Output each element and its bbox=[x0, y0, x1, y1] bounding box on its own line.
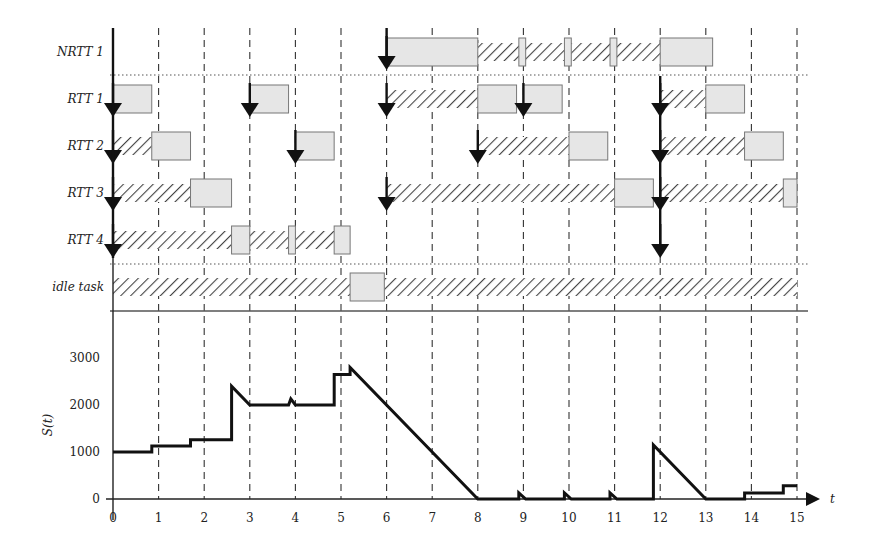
waiting-segment bbox=[113, 278, 350, 296]
x-tick-label: 4 bbox=[292, 511, 300, 525]
execution-block bbox=[289, 226, 296, 254]
release-arrow-head-icon bbox=[378, 103, 396, 117]
execution-block bbox=[783, 179, 797, 207]
task-row-idle-task bbox=[113, 273, 797, 301]
waiting-segment bbox=[384, 278, 797, 296]
execution-block bbox=[387, 38, 478, 66]
execution-block bbox=[295, 132, 334, 160]
execution-block bbox=[350, 273, 384, 301]
execution-block bbox=[191, 179, 232, 207]
x-tick-label: 2 bbox=[200, 511, 208, 525]
waiting-segment bbox=[660, 184, 783, 202]
gantt-schedule bbox=[104, 28, 797, 520]
x-tick-label: 9 bbox=[520, 511, 528, 525]
row-label: idle task bbox=[52, 280, 104, 294]
x-axis-label: t bbox=[830, 492, 835, 506]
x-axis-arrow-icon bbox=[806, 492, 820, 506]
y-tick-label: 1000 bbox=[69, 445, 100, 459]
task-row-labels: NRTT 1RTT 1RTT 2RTT 3RTT 4idle task bbox=[52, 45, 104, 294]
task-row-rtt-4 bbox=[113, 226, 350, 254]
execution-block bbox=[519, 38, 526, 66]
x-tick-label: 12 bbox=[653, 511, 668, 525]
execution-block bbox=[478, 85, 517, 113]
execution-block bbox=[660, 38, 712, 66]
row-label: RTT 2 bbox=[66, 139, 104, 153]
y-axis-label: S(t) bbox=[41, 413, 55, 436]
x-tick-label: 5 bbox=[337, 511, 345, 525]
x-tick-label: 15 bbox=[789, 511, 804, 525]
waiting-segment bbox=[113, 184, 191, 202]
waiting-segment bbox=[387, 184, 615, 202]
x-tick-label: 1 bbox=[155, 511, 163, 525]
row-label: RTT 3 bbox=[66, 186, 104, 200]
s-of-t-plot: t01234567891011121314150100020003000S(t) bbox=[41, 351, 835, 525]
waiting-segment bbox=[387, 90, 478, 108]
y-tick-label: 3000 bbox=[69, 351, 100, 365]
x-tick-label: 14 bbox=[744, 511, 760, 525]
execution-block bbox=[334, 226, 350, 254]
execution-block bbox=[564, 38, 571, 66]
execution-block bbox=[523, 85, 562, 113]
execution-block bbox=[569, 132, 608, 160]
x-tick-label: 6 bbox=[383, 511, 391, 525]
series-line-s-of-t bbox=[113, 367, 797, 499]
row-label: RTT 4 bbox=[66, 233, 104, 247]
execution-block bbox=[706, 85, 745, 113]
execution-block bbox=[745, 132, 784, 160]
row-label: RTT 1 bbox=[66, 92, 104, 106]
x-tick-label: 7 bbox=[428, 511, 436, 525]
x-tick-label: 0 bbox=[109, 511, 117, 525]
schedule-chart: NRTT 1RTT 1RTT 2RTT 3RTT 4idle task t012… bbox=[0, 0, 872, 553]
waiting-segment bbox=[113, 231, 232, 249]
x-tick-label: 13 bbox=[698, 511, 713, 525]
task-row-rtt-2 bbox=[113, 132, 783, 160]
execution-block bbox=[615, 179, 654, 207]
waiting-segment bbox=[295, 231, 334, 249]
execution-block bbox=[232, 226, 250, 254]
execution-block bbox=[250, 85, 289, 113]
task-row-rtt-1 bbox=[113, 85, 745, 113]
waiting-segment bbox=[250, 231, 289, 249]
execution-block bbox=[113, 85, 152, 113]
row-label: NRTT 1 bbox=[56, 45, 104, 59]
y-tick-label: 2000 bbox=[69, 398, 100, 412]
x-tick-label: 8 bbox=[474, 511, 482, 525]
task-row-rtt-3 bbox=[113, 179, 797, 207]
waiting-segment bbox=[478, 137, 569, 155]
x-tick-label: 11 bbox=[607, 511, 622, 525]
execution-block bbox=[152, 132, 191, 160]
execution-block bbox=[610, 38, 617, 66]
waiting-segment bbox=[660, 137, 744, 155]
task-row-nrtt-1 bbox=[387, 38, 713, 66]
y-tick-label: 0 bbox=[92, 492, 100, 506]
x-tick-label: 10 bbox=[561, 511, 576, 525]
release-arrow-head-icon bbox=[378, 197, 396, 211]
release-arrow-head-icon bbox=[469, 150, 487, 164]
x-tick-label: 3 bbox=[246, 511, 254, 525]
